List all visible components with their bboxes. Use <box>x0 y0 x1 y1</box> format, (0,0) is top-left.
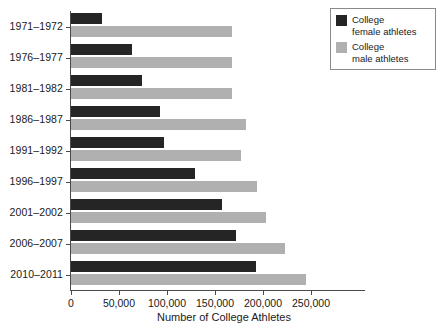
x-axis-title-label: Number of College Athletes <box>157 311 291 323</box>
x-tick-label: 0 <box>68 297 74 309</box>
x-tick <box>215 290 216 295</box>
bar-male <box>71 150 241 161</box>
y-tick-label: 1986–1987 <box>10 113 63 125</box>
y-tick-label: 1991–1992 <box>10 144 63 156</box>
bar-male <box>71 88 232 99</box>
y-tick <box>66 120 71 121</box>
bar-female <box>71 75 142 86</box>
x-tick-label: 50,000 <box>103 297 135 309</box>
legend-label-male: College male athletes <box>352 41 409 64</box>
bar-group <box>71 11 371 42</box>
x-axis-line <box>70 290 365 291</box>
bar-male <box>71 26 232 37</box>
bar-male <box>71 119 246 130</box>
bar-female <box>71 13 102 24</box>
x-axis-title: Number of College Athletes <box>0 311 442 323</box>
x-tick <box>119 290 120 295</box>
x-tick <box>71 290 72 295</box>
legend-swatch-female <box>336 15 347 26</box>
bar-group <box>71 228 371 259</box>
y-tick <box>66 89 71 90</box>
x-tick-label: 150,000 <box>196 297 234 309</box>
legend-item-male: College male athletes <box>336 41 431 64</box>
bar-female <box>71 261 256 272</box>
x-tick-label: 250,000 <box>292 297 330 309</box>
y-tick <box>66 27 71 28</box>
bar-male <box>71 181 257 192</box>
y-tick-label: 1976–1977 <box>10 51 63 63</box>
bar-group <box>71 73 371 104</box>
bar-male <box>71 274 306 285</box>
legend-label-female-line1: College <box>352 14 384 25</box>
y-tick <box>66 182 71 183</box>
bar-group <box>71 135 371 166</box>
bar-group <box>71 42 371 73</box>
legend-label-male-line1: College <box>352 41 384 52</box>
bar-group <box>71 197 371 228</box>
y-tick <box>66 275 71 276</box>
x-tick <box>167 290 168 295</box>
y-tick <box>66 151 71 152</box>
bar-male <box>71 212 266 223</box>
bar-female <box>71 106 160 117</box>
y-tick-label: 2006–2007 <box>10 237 63 249</box>
bar-group <box>71 104 371 135</box>
legend-label-female-line2: female athletes <box>352 26 416 38</box>
y-tick <box>66 244 71 245</box>
bar-female <box>71 199 222 210</box>
bar-group <box>71 166 371 197</box>
y-tick <box>66 213 71 214</box>
bar-female <box>71 230 236 241</box>
x-tick-label: 200,000 <box>244 297 282 309</box>
bar-female <box>71 137 164 148</box>
y-tick-label: 1981–1982 <box>10 82 63 94</box>
legend-swatch-male <box>336 42 347 53</box>
y-tick <box>66 58 71 59</box>
bar-female <box>71 44 132 55</box>
y-tick-label: 1971–1972 <box>10 20 63 32</box>
bar-chart: 1971–19721976–19771981–19821986–19871991… <box>0 0 442 327</box>
plot-area <box>71 11 371 290</box>
legend: College female athletes College male ath… <box>330 8 436 70</box>
x-tick-label: 100,000 <box>148 297 186 309</box>
y-tick-label: 2010–2011 <box>10 268 63 280</box>
x-tick <box>311 290 312 295</box>
legend-item-female: College female athletes <box>336 14 431 37</box>
legend-label-female: College female athletes <box>352 14 416 37</box>
legend-label-male-line2: male athletes <box>352 53 409 65</box>
bar-female <box>71 168 195 179</box>
bar-group <box>71 259 371 290</box>
bar-male <box>71 243 285 254</box>
y-tick-label: 2001–2002 <box>10 206 63 218</box>
bar-male <box>71 57 232 68</box>
y-tick-label: 1996–1997 <box>10 175 63 187</box>
x-tick <box>263 290 264 295</box>
